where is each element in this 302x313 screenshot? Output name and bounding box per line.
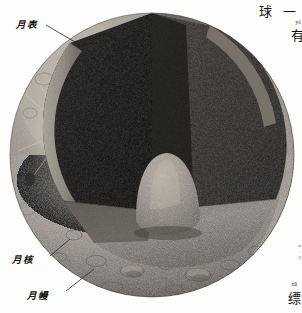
bottom-right-pinyin: xū — [291, 281, 297, 287]
page-title: 球 一 — [259, 1, 300, 20]
top-right-character: 有 — [291, 25, 302, 44]
moon-sphere-illustration — [8, 3, 296, 308]
margin-mark-3: 2 — [299, 255, 302, 261]
label-lunar-core: 月核 — [12, 252, 33, 266]
moon-cutaway-svg — [8, 3, 296, 308]
bottom-right-character: 缥 — [288, 288, 301, 307]
label-lunar-mantle: 月幔 — [27, 288, 48, 302]
leader-line-surface — [46, 25, 80, 45]
label-lunar-surface: 月表 — [16, 17, 37, 31]
moon-structure-figure: 月表 月核 月幔 球 一 yǒ 有 a · 2 xū 缥 — [0, 0, 302, 313]
margin-marks: a · 2 — [299, 243, 302, 261]
